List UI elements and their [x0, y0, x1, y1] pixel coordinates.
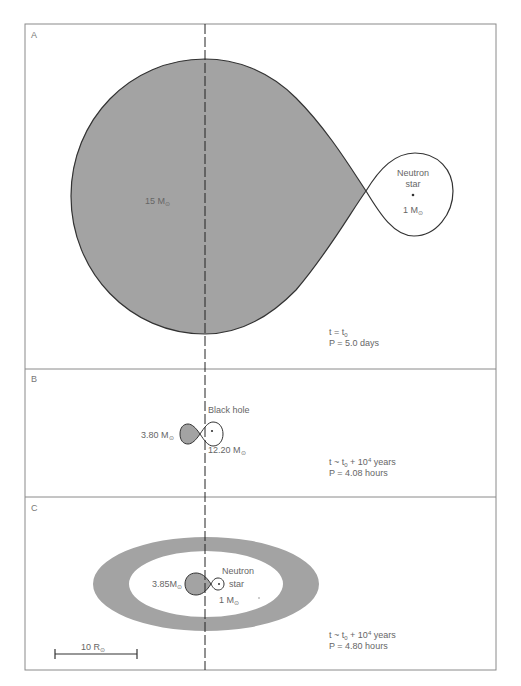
panel-a-letter: A — [31, 30, 37, 40]
panel-c-letter: C — [31, 503, 38, 513]
companion-name-label: Black hole — [208, 405, 250, 415]
binary-evolution-diagram: A 15 M⊙ Neutron star 1 M⊙ t = t0 P = 5.0… — [0, 0, 521, 686]
neutron-star-roche-lobe — [366, 153, 453, 236]
period-label: P = 4.80 hours — [329, 641, 388, 651]
scale-bar-label: 10 R⊙ — [81, 642, 105, 653]
primary-roche-lobe — [71, 59, 366, 334]
neutron-star-dot — [218, 583, 220, 585]
stray-dot — [258, 597, 259, 598]
companion-name-line2: star — [229, 579, 244, 589]
neutron-star-dot — [412, 194, 415, 197]
primary-roche-lobe — [180, 424, 200, 444]
period-label: P = 4.08 hours — [329, 468, 388, 478]
panel-c: C 3.85M⊙ Neutron star 1 M⊙ 10 R⊙ t ~ t0 … — [31, 503, 396, 659]
period-label: P = 5.0 days — [329, 338, 380, 348]
primary-roche-lobe — [185, 573, 211, 595]
neutron-star-roche-lobe — [211, 578, 224, 590]
panel-b: B 3.80 M⊙ Black hole 12.20 M⊙ t ~ t0 + 1… — [31, 374, 396, 478]
time-label: t ~ t0 + 104 years — [329, 630, 396, 641]
time-label: t ~ t0 + 104 years — [329, 457, 396, 468]
black-hole-dot — [211, 430, 213, 432]
primary-mass-label: 3.85M⊙ — [152, 579, 182, 590]
companion-name-line1: Neutron — [222, 566, 254, 576]
panel-a: A 15 M⊙ Neutron star 1 M⊙ t = t0 P = 5.0… — [31, 30, 453, 348]
panel-b-letter: B — [31, 374, 37, 384]
primary-mass-label: 3.80 M⊙ — [141, 430, 174, 441]
companion-mass-label: 12.20 M⊙ — [208, 445, 246, 456]
time-label: t = t0 — [329, 327, 348, 338]
companion-name-line1: Neutron — [397, 168, 429, 178]
companion-mass-label: 1 M⊙ — [219, 595, 239, 606]
black-hole-roche-lobe — [200, 422, 223, 446]
companion-name-line2: star — [405, 179, 420, 189]
